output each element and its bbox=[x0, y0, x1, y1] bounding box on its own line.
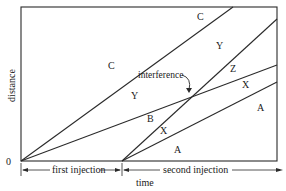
arrow-right-icon bbox=[276, 168, 283, 172]
region-label-y-left: Y bbox=[131, 91, 138, 101]
region-label-c-upper: C bbox=[197, 12, 204, 22]
plot-frame bbox=[21, 7, 277, 161]
region-label-x-right: X bbox=[242, 80, 249, 90]
interference-arrowhead-icon bbox=[186, 88, 192, 93]
origin-label: 0 bbox=[6, 157, 11, 167]
region-label-x-lower: X bbox=[160, 126, 167, 136]
line-first-fast bbox=[21, 7, 233, 161]
region-label-b: B bbox=[147, 114, 154, 124]
arrow-left-icon bbox=[123, 168, 129, 172]
arrow-left-icon bbox=[22, 168, 28, 172]
y-axis-label: distance bbox=[6, 66, 17, 106]
diagram-lines bbox=[0, 0, 286, 191]
interference-label: interference bbox=[138, 70, 183, 80]
region-label-z: Z bbox=[230, 64, 236, 74]
second-injection-label: second injection bbox=[163, 165, 228, 175]
line-second-fast bbox=[122, 19, 277, 161]
region-label-c-left: C bbox=[108, 61, 115, 71]
arrow-right-icon bbox=[115, 168, 121, 172]
region-label-a-right: A bbox=[257, 103, 264, 113]
region-label-y-upper: Y bbox=[216, 41, 223, 51]
distance-time-diagram: distance 0 time first injection second i… bbox=[0, 0, 286, 191]
x-axis-label: time bbox=[136, 178, 154, 188]
first-injection-label: first injection bbox=[52, 165, 106, 175]
region-label-a-lower: A bbox=[174, 145, 181, 155]
